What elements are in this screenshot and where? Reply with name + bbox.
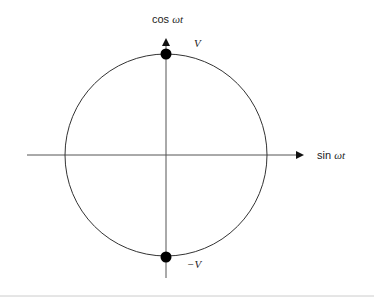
point-top (161, 49, 172, 60)
point-bottom (161, 252, 172, 263)
phasor-diagram: cos ωt sin ωt V −V (0, 0, 374, 302)
x-axis-label: sin ωt (317, 149, 346, 161)
point-top-label: V (194, 37, 202, 49)
y-axis-label: cos ωt (152, 13, 184, 25)
point-bottom-label: −V (187, 258, 202, 270)
